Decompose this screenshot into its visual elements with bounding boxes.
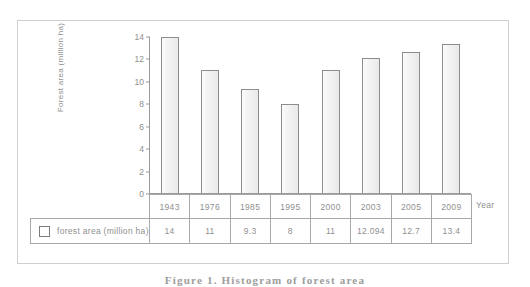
value-cell: 11 (189, 218, 230, 244)
y-tick-label: 4 (139, 145, 144, 154)
value-cell: 11 (310, 218, 351, 244)
year-cell: 2000 (310, 194, 351, 219)
bar-1995 (281, 104, 299, 193)
chart-frame: Forest area (million ha) 02468101214 194… (17, 20, 509, 264)
value-cell: 12.7 (391, 218, 432, 244)
y-tick-label: 14 (135, 33, 144, 42)
year-cell: 1943 (149, 194, 190, 219)
square-outline-icon (39, 226, 50, 237)
value-cells: 14119.381112.09412.713.4 (150, 219, 472, 244)
value-cell: 12.094 (350, 218, 391, 244)
year-cell: 2005 (391, 194, 432, 219)
value-cell: 9.3 (230, 218, 271, 244)
figure-caption: Figure 1. Histogram of forest area (0, 274, 530, 286)
y-tick-label: 6 (139, 122, 144, 131)
figure-container: Forest area (million ha) 02468101214 194… (0, 0, 530, 287)
bar-1976 (201, 70, 219, 193)
bar-slot (431, 37, 471, 193)
data-table: 19431976198519952000200320052009 forest … (30, 194, 472, 244)
year-cell: 1995 (270, 194, 311, 219)
year-cell: 1985 (230, 194, 271, 219)
y-tick-label: 10 (135, 78, 144, 87)
bar-slot (270, 37, 310, 193)
years-row-spacer (30, 194, 150, 219)
year-cell: 1976 (189, 194, 230, 219)
bar-slot (351, 37, 391, 193)
x-axis-title: Year (476, 200, 494, 210)
bar-slot (150, 37, 190, 193)
bar-series (150, 37, 471, 193)
bar-slot (311, 37, 351, 193)
bar-slot (230, 37, 270, 193)
value-cell: 8 (270, 218, 311, 244)
plot-area: 02468101214 (149, 37, 471, 194)
y-tick-label: 12 (135, 55, 144, 64)
bar-1985 (241, 89, 259, 193)
year-cells: 19431976198519952000200320052009 (150, 194, 472, 219)
bar-2000 (322, 70, 340, 193)
legend-label: forest area (million ha) (57, 226, 149, 236)
bar-2003 (362, 58, 380, 193)
table-row-years: 19431976198519952000200320052009 (30, 194, 472, 219)
table-row-values: forest area (million ha) 14119.381112.09… (30, 219, 472, 244)
value-cell: 14 (149, 218, 190, 244)
bar-1943 (161, 37, 179, 193)
value-cell: 13.4 (431, 218, 472, 244)
bar-slot (190, 37, 230, 193)
y-tick-label: 8 (139, 100, 144, 109)
bar-2005 (402, 52, 420, 194)
bar-2009 (442, 44, 460, 193)
bar-slot (391, 37, 431, 193)
year-cell: 2003 (350, 194, 391, 219)
y-tick-label: 2 (139, 167, 144, 176)
year-cell: 2009 (431, 194, 472, 219)
legend-cell: forest area (million ha) (30, 218, 150, 244)
y-axis-title: Forest area (million ha) (56, 0, 65, 138)
